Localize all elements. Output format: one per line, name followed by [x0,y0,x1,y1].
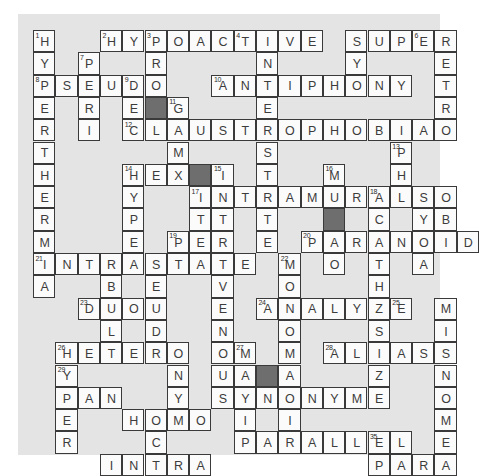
crossword-cell[interactable]: I [434,320,456,342]
crossword-cell[interactable]: H [122,409,144,431]
crossword-cell[interactable]: E [145,275,167,297]
crossword-cell[interactable]: I [434,231,456,253]
crossword-cell[interactable]: I [100,454,122,476]
crossword-cell[interactable]: 1H [33,30,55,52]
crossword-cell[interactable]: R [33,208,55,230]
crossword-cell[interactable]: N [256,52,278,74]
crossword-cell[interactable]: T [256,164,278,186]
crossword-cell[interactable]: I [278,409,300,431]
crossword-cell[interactable]: O [211,342,233,364]
crossword-cell[interactable]: M [345,387,367,409]
crossword-cell[interactable]: O [278,387,300,409]
crossword-cell[interactable]: 25E [390,298,412,320]
crossword-cell[interactable]: M [434,298,456,320]
crossword-cell[interactable]: E [434,52,456,74]
crossword-cell[interactable]: R [278,431,300,453]
crossword-cell[interactable]: R [78,97,100,119]
crossword-cell[interactable]: 3P [145,30,167,52]
crossword-cell[interactable]: O [434,119,456,141]
crossword-cell[interactable]: M [278,342,300,364]
crossword-cell[interactable]: O [345,75,367,97]
crossword-cell[interactable]: L [345,342,367,364]
crossword-cell[interactable]: M [434,409,456,431]
crossword-cell[interactable]: E [55,409,77,431]
crossword-cell[interactable]: I [234,409,256,431]
crossword-cell[interactable]: M [167,409,189,431]
crossword-cell[interactable]: N [100,387,122,409]
crossword-cell[interactable]: S [368,320,390,342]
crossword-cell[interactable]: R [256,186,278,208]
crossword-cell[interactable]: A [278,365,300,387]
crossword-cell[interactable]: T [256,75,278,97]
crossword-cell[interactable]: A [390,342,412,364]
crossword-cell[interactable]: S [145,253,167,275]
crossword-cell[interactable]: 14H [122,164,144,186]
crossword-cell[interactable]: E [78,75,100,97]
crossword-cell[interactable]: T [434,75,456,97]
crossword-cell[interactable]: E [211,298,233,320]
crossword-cell[interactable]: 29Y [55,365,77,387]
crossword-cell[interactable]: I [368,342,390,364]
crossword-cell[interactable]: N [167,365,189,387]
crossword-cell[interactable]: T [145,454,167,476]
crossword-cell[interactable]: A [390,454,412,476]
crossword-cell[interactable]: 27M [234,342,256,364]
crossword-cell[interactable]: H [323,119,345,141]
crossword-cell[interactable]: E [122,342,144,364]
crossword-cell[interactable]: R [145,342,167,364]
crossword-cell[interactable]: 13P [390,142,412,164]
crossword-cell[interactable]: N [256,387,278,409]
crossword-cell[interactable]: 19P [167,231,189,253]
crossword-cell[interactable]: L [323,431,345,453]
crossword-cell[interactable]: S [434,342,456,364]
crossword-cell[interactable]: E [145,164,167,186]
crossword-cell[interactable]: N [278,298,300,320]
crossword-cell[interactable]: 26H [55,342,77,364]
crossword-cell[interactable]: A [78,387,100,409]
crossword-cell[interactable]: E [434,431,456,453]
crossword-cell[interactable]: A [122,253,144,275]
crossword-cell[interactable]: C [368,208,390,230]
crossword-cell[interactable]: N [368,75,390,97]
crossword-cell[interactable]: 17I [189,186,211,208]
crossword-cell[interactable]: L [390,431,412,453]
crossword-cell[interactable]: N [211,320,233,342]
crossword-cell[interactable]: 22M [278,253,300,275]
crossword-cell[interactable]: A [368,231,390,253]
crossword-cell[interactable]: T [211,253,233,275]
crossword-cell[interactable]: U [189,119,211,141]
crossword-cell[interactable]: C [145,431,167,453]
crossword-cell[interactable]: N [234,75,256,97]
crossword-cell[interactable]: O [189,409,211,431]
crossword-cell[interactable]: E [189,231,211,253]
crossword-cell[interactable]: 4T [234,30,256,52]
crossword-cell[interactable]: O [278,320,300,342]
crossword-cell[interactable]: X [167,164,189,186]
crossword-cell[interactable]: E [78,342,100,364]
crossword-cell[interactable]: Y [33,52,55,74]
crossword-cell[interactable]: T [234,186,256,208]
crossword-cell[interactable]: 28A [323,342,345,364]
crossword-cell[interactable]: R [345,186,367,208]
crossword-cell[interactable]: T [234,119,256,141]
crossword-cell[interactable]: T [256,208,278,230]
crossword-cell[interactable]: L [145,119,167,141]
crossword-cell[interactable]: A [412,119,434,141]
crossword-cell[interactable]: O [434,387,456,409]
crossword-cell[interactable]: I [390,119,412,141]
crossword-cell[interactable]: Y [167,387,189,409]
crossword-cell[interactable]: P [234,431,256,453]
crossword-cell[interactable]: L [100,320,122,342]
crossword-cell[interactable]: 12C [122,119,144,141]
crossword-cell[interactable]: E [33,186,55,208]
crossword-cell[interactable]: V [211,275,233,297]
crossword-cell[interactable]: R [211,231,233,253]
crossword-cell[interactable]: P [55,387,77,409]
crossword-cell[interactable]: R [33,119,55,141]
crossword-cell[interactable]: A [189,253,211,275]
crossword-cell[interactable]: A [412,253,434,275]
crossword-cell[interactable]: S [211,387,233,409]
crossword-cell[interactable]: A [189,454,211,476]
crossword-cell[interactable]: O [145,409,167,431]
crossword-cell[interactable]: R [100,253,122,275]
